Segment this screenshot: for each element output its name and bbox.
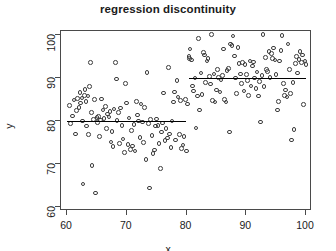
data-point — [182, 134, 187, 139]
x-tick-label-100: 100 — [296, 219, 314, 231]
data-point — [167, 132, 172, 137]
data-point — [177, 132, 182, 137]
data-point — [275, 108, 280, 113]
data-point — [257, 79, 262, 84]
y-tick-label-90: 90 — [45, 77, 57, 89]
data-point — [110, 129, 115, 134]
data-point — [127, 116, 132, 121]
data-point — [249, 84, 254, 89]
data-point — [262, 84, 267, 89]
data-point — [286, 42, 291, 47]
data-point — [194, 126, 199, 131]
data-point — [250, 64, 255, 69]
data-point — [288, 91, 293, 96]
data-point — [244, 72, 249, 77]
data-point — [200, 92, 205, 97]
data-point — [88, 60, 93, 65]
data-point — [161, 91, 166, 96]
x-tick-label-60: 60 — [60, 219, 72, 231]
data-point — [197, 108, 202, 113]
data-point — [256, 94, 261, 99]
x-tick-label-80: 80 — [180, 219, 192, 231]
data-point — [232, 54, 237, 59]
data-point — [117, 141, 122, 146]
data-point — [185, 102, 190, 107]
data-point — [190, 84, 195, 89]
data-point — [123, 81, 128, 86]
data-point — [81, 182, 86, 187]
data-point — [159, 130, 164, 135]
data-point — [84, 124, 89, 129]
data-point — [87, 84, 92, 89]
y-tick-label-100: 100 — [45, 34, 57, 52]
data-point — [280, 33, 285, 38]
data-point — [287, 67, 292, 72]
data-point — [166, 65, 171, 70]
data-point — [226, 66, 231, 71]
data-point — [86, 132, 91, 137]
y-tick-label-80: 80 — [45, 120, 57, 132]
data-point — [133, 149, 138, 154]
data-point — [213, 100, 218, 105]
data-point — [172, 90, 177, 95]
data-point — [292, 127, 297, 132]
data-point — [243, 62, 248, 67]
data-point — [184, 149, 189, 154]
data-point — [147, 186, 152, 191]
data-point — [269, 51, 274, 56]
plot-area — [60, 30, 311, 210]
data-point — [276, 99, 281, 104]
data-point — [150, 133, 155, 138]
data-point — [141, 140, 146, 145]
data-point — [271, 46, 276, 51]
data-point — [92, 97, 97, 102]
data-point — [165, 136, 170, 141]
data-point — [196, 36, 201, 41]
x-tick-90 — [245, 210, 246, 215]
data-point — [90, 163, 95, 168]
data-point — [70, 114, 75, 119]
data-point — [122, 150, 127, 155]
data-point — [261, 32, 266, 37]
data-point — [227, 130, 232, 135]
data-point — [99, 97, 104, 102]
data-point — [78, 101, 83, 106]
data-point — [277, 59, 282, 64]
data-point — [129, 128, 134, 133]
data-point — [293, 61, 298, 66]
data-point — [118, 106, 123, 111]
plot-inner — [61, 31, 310, 209]
data-point — [206, 56, 211, 61]
data-point — [230, 43, 235, 48]
data-point — [103, 104, 108, 109]
data-point — [142, 105, 147, 110]
data-point — [289, 138, 294, 143]
data-point — [158, 166, 163, 171]
data-point — [144, 157, 149, 162]
data-point — [191, 89, 196, 94]
data-point — [279, 48, 284, 53]
data-point — [97, 134, 102, 139]
data-point — [111, 144, 116, 149]
data-point — [304, 62, 309, 67]
data-point — [274, 72, 279, 77]
data-point — [157, 141, 162, 146]
data-point — [300, 53, 305, 58]
data-point — [173, 138, 178, 143]
chart-canvas: regression discontinuity y x 60708090100… — [0, 0, 336, 251]
data-point — [152, 148, 157, 153]
data-point — [175, 78, 180, 83]
data-point — [86, 94, 91, 99]
data-point — [215, 67, 220, 72]
data-point — [134, 99, 139, 104]
x-tick-label-70: 70 — [120, 219, 132, 231]
data-point — [291, 80, 296, 85]
data-point — [224, 100, 229, 105]
data-point — [124, 101, 129, 106]
data-point — [113, 60, 118, 65]
data-point — [189, 58, 194, 63]
data-point — [251, 60, 256, 65]
regression-line-fit-right — [189, 78, 306, 79]
data-point — [221, 47, 226, 52]
data-point — [169, 145, 174, 150]
